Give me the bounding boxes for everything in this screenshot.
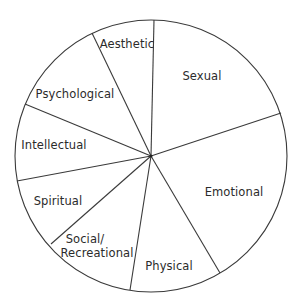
segment-label-recreational: Recreational xyxy=(61,246,134,260)
segment-label-psychological: Psychological xyxy=(36,87,115,101)
segment-label-social: Social/ xyxy=(66,232,105,246)
center-point xyxy=(150,155,153,158)
segment-label-physical: Physical xyxy=(145,259,193,273)
segment-label-emotional: Emotional xyxy=(205,185,264,199)
segment-label-intellectual: Intellectual xyxy=(21,138,86,152)
wellness-dimensions-circle: Aesthetic Sexual Emotional Physical Soci… xyxy=(0,0,302,306)
segment-label-spiritual: Spiritual xyxy=(34,194,83,208)
segment-label-sexual: Sexual xyxy=(182,69,221,83)
segment-label-aesthetic: Aesthetic xyxy=(100,37,155,51)
